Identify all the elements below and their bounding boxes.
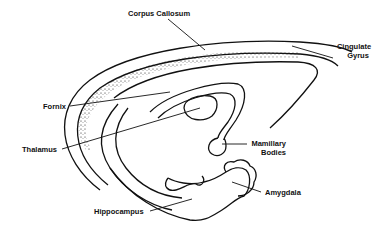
label-thalamus: Thalamus	[22, 145, 57, 154]
fornix-shape	[150, 83, 245, 140]
mamillary-bodies-shape	[209, 138, 226, 156]
thalamus-shape	[184, 96, 217, 120]
label-cingulate-gyrus: Cingulate Gyrus	[334, 42, 374, 60]
amygdala-shape	[224, 160, 256, 196]
leader-lines	[62, 19, 333, 211]
label-fornix: Fornix	[43, 102, 66, 111]
label-corpus-callosum: Corpus Callosum	[128, 9, 190, 18]
label-mamillary-bodies: Mamillary Bodies	[246, 139, 286, 157]
label-cingulate-gyrus-line1: Cingulate	[334, 42, 374, 51]
label-cingulate-gyrus-line2: Gyrus	[334, 51, 374, 60]
label-mamillary-bodies-line2: Bodies	[246, 148, 286, 157]
label-mamillary-bodies-line1: Mamillary	[246, 139, 286, 148]
label-amygdala: Amygdala	[265, 188, 301, 197]
label-hippocampus: Hippocampus	[94, 207, 144, 216]
limbic-system-diagram	[0, 0, 378, 235]
